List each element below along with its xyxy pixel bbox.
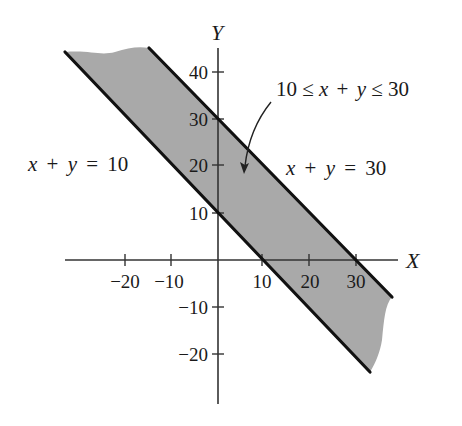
y-tick-label: −10 bbox=[178, 297, 208, 318]
x-tick-label: −10 bbox=[154, 271, 184, 292]
label-x-plus-y-equals-30: x + y = 30 bbox=[285, 156, 386, 180]
label-x-plus-y-equals-10: x + y = 10 bbox=[27, 152, 128, 176]
y-tick-label: −20 bbox=[178, 344, 208, 365]
x-tick-label: 30 bbox=[347, 271, 366, 292]
y-tick-label: 20 bbox=[189, 155, 208, 176]
x-axis-label: X bbox=[405, 248, 421, 273]
y-tick-label: 30 bbox=[189, 109, 208, 130]
x-tick-label: 10 bbox=[253, 271, 272, 292]
y-tick-label: 40 bbox=[189, 62, 208, 83]
y-tick-label: 10 bbox=[189, 203, 208, 224]
inequality-region-diagram: Y X −20 −10 10 20 30 40 30 20 10 −10 −20… bbox=[0, 0, 462, 426]
region-label: 10 ≤ x + y ≤ 30 bbox=[276, 77, 409, 101]
x-tick-label: 20 bbox=[301, 271, 320, 292]
y-axis-label: Y bbox=[211, 20, 226, 45]
x-tick-label: −20 bbox=[110, 271, 140, 292]
